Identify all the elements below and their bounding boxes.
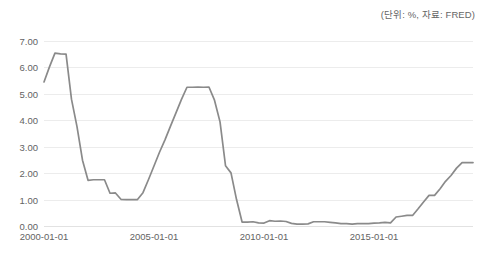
x-axis-labels: 2000-01-012005-01-012010-01-012015-01-01 xyxy=(0,0,491,261)
x-tick-label: 2015-01-01 xyxy=(350,231,399,242)
x-tick-label: 2010-01-01 xyxy=(240,231,289,242)
x-tick-label: 2005-01-01 xyxy=(130,231,179,242)
x-tick-label: 2000-01-01 xyxy=(20,231,69,242)
chart-figure: (단위: %, 자료: FRED) 7.006.005.004.003.002.… xyxy=(0,0,491,261)
